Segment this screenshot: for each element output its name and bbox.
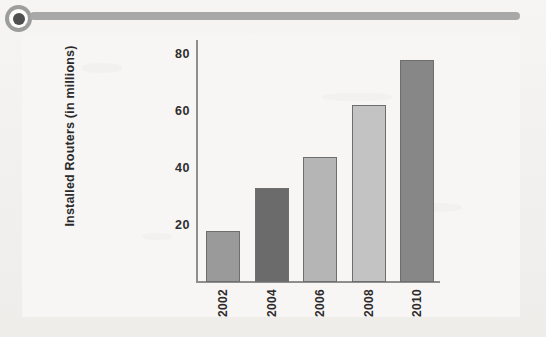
y-axis-tick-label: 80 [156, 48, 190, 61]
x-axis-tick-text: 2006 [313, 289, 327, 317]
x-axis-tick-text: 2008 [362, 289, 376, 317]
y-axis-tick-label: 20 [156, 219, 190, 232]
y-axis-tick-label: 40 [156, 162, 190, 175]
x-axis-tick-label-2010: 2010 [400, 285, 434, 317]
horizontal-rule [30, 12, 520, 20]
x-axis-tick-label-2002: 2002 [206, 285, 240, 317]
x-axis-tick-label-2008: 2008 [352, 285, 386, 317]
chart-panel: Installed Routers (in millions) 20 40 60… [22, 33, 520, 317]
bar-2008[interactable] [352, 105, 386, 282]
bar-chart-plot: Installed Routers (in millions) 20 40 60… [22, 33, 520, 317]
x-axis-tick-text: 2002 [216, 289, 230, 317]
target-icon-core [13, 13, 25, 25]
x-axis-tick-label-2006: 2006 [303, 285, 337, 317]
top-ornament [0, 0, 546, 34]
x-axis-tick-label-2004: 2004 [255, 285, 289, 317]
y-axis-title: Installed Routers (in millions) [63, 29, 77, 244]
target-icon [5, 5, 32, 32]
bar-2004[interactable] [255, 188, 289, 282]
y-axis-tick-label: 60 [156, 105, 190, 118]
page-root: Installed Routers (in millions) 20 40 60… [0, 0, 546, 337]
bar-2010[interactable] [400, 60, 434, 282]
bars-layer [198, 33, 442, 282]
x-axis-tick-labels: 2002 2004 2006 2008 2010 [198, 285, 442, 317]
bar-2002[interactable] [206, 231, 240, 282]
bar-2006[interactable] [303, 157, 337, 282]
x-axis-tick-text: 2004 [265, 289, 279, 317]
x-axis-tick-text: 2010 [410, 289, 424, 317]
y-axis-tick-labels: 20 40 60 80 [150, 33, 190, 317]
